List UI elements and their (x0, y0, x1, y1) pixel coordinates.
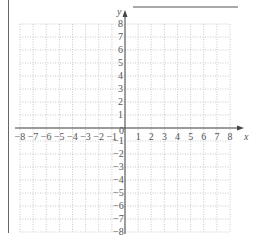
y-tick-label: −6 (113, 201, 124, 211)
x-axis-label: x (244, 132, 248, 142)
y-axis-label: y (117, 7, 121, 17)
x-tick-label: −3 (80, 132, 91, 142)
y-tick-label: 4 (118, 71, 123, 81)
x-tick-label: −5 (54, 132, 65, 142)
x-tick-label: −6 (41, 132, 52, 142)
y-tick-label: 2 (118, 97, 123, 107)
x-tick-label: 3 (162, 132, 167, 142)
x-tick-label: 4 (175, 132, 180, 142)
y-tick-label: −3 (113, 162, 124, 172)
x-tick-label: 7 (214, 132, 219, 142)
coordinate-grid (0, 0, 263, 252)
x-tick-label: 5 (188, 132, 193, 142)
y-tick-label: 1 (118, 110, 123, 120)
y-tick-label: 6 (118, 45, 123, 55)
y-tick-label: 8 (118, 19, 123, 29)
y-axis-arrow-icon (123, 10, 128, 17)
x-tick-label: −2 (93, 132, 104, 142)
coordinate-plane-figure: −8−7−6−5−4−3−2−112345678087654321−1−2−3−… (0, 0, 263, 252)
x-tick-label: −4 (67, 132, 78, 142)
y-tick-label: 5 (118, 58, 123, 68)
y-tick-label: −5 (113, 188, 124, 198)
x-tick-label: 1 (136, 132, 141, 142)
y-tick-label: 7 (118, 32, 123, 42)
x-tick-label: 8 (228, 132, 233, 142)
y-tick-label: −1 (113, 136, 124, 146)
y-tick-label: 3 (118, 84, 123, 94)
x-tick-label: 6 (201, 132, 206, 142)
y-tick-label: −8 (113, 227, 124, 237)
y-tick-label: −2 (113, 149, 124, 159)
y-tick-label: −4 (113, 175, 124, 185)
x-tick-label: −7 (28, 132, 39, 142)
x-tick-label: −8 (15, 132, 26, 142)
x-axis-arrow-icon (237, 126, 244, 131)
x-tick-label: 2 (149, 132, 154, 142)
y-tick-label: −7 (113, 214, 124, 224)
